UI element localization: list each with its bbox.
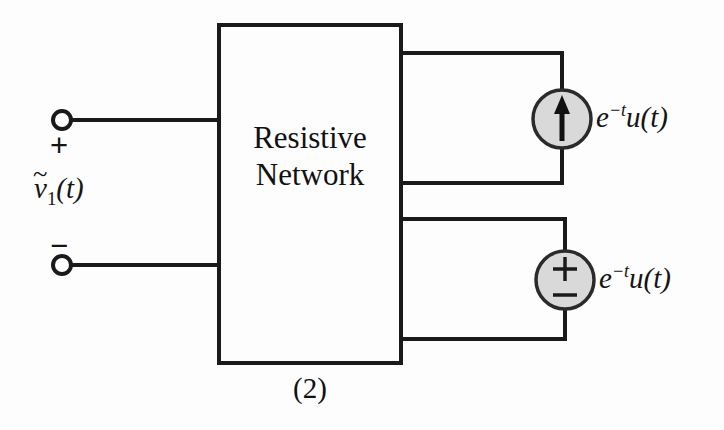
port-voltage-label: ~ v 1(t) bbox=[34, 172, 84, 210]
terminal-minus-sign: − bbox=[50, 228, 68, 264]
current-source-label-exponent: −t bbox=[609, 100, 626, 120]
wire-loop-current-source-return bbox=[399, 146, 562, 183]
circuit-diagram-svg bbox=[0, 0, 724, 430]
port-voltage-arg: (t) bbox=[56, 172, 83, 204]
voltage-source-label: e−tu(t) bbox=[599, 261, 671, 295]
resistive-network-label-line2: Network bbox=[219, 157, 401, 194]
current-source-label: e−tu(t) bbox=[596, 100, 668, 134]
port-voltage-symbol: ~ v bbox=[34, 172, 47, 205]
figure-canvas: Resistive Network (2) + − ~ v 1(t) e−tu(… bbox=[0, 0, 724, 430]
resistive-network-label: Resistive Network bbox=[219, 120, 401, 193]
resistive-network-label-line1: Resistive bbox=[219, 120, 401, 157]
resistive-network-block bbox=[219, 25, 401, 363]
current-source-label-rest: u(t) bbox=[626, 101, 668, 133]
wire-loop-current-source bbox=[399, 53, 562, 92]
voltage-source-label-base: e bbox=[599, 262, 612, 294]
figure-caption: (2) bbox=[219, 372, 401, 405]
voltage-source-label-exponent: −t bbox=[612, 261, 629, 281]
terminal-node-positive bbox=[53, 111, 71, 129]
voltage-source-label-rest: u(t) bbox=[629, 262, 671, 294]
current-source-label-base: e bbox=[596, 101, 609, 133]
port-voltage-subscript: 1 bbox=[47, 188, 56, 209]
tilde-accent: ~ bbox=[33, 159, 47, 190]
terminal-plus-sign: + bbox=[50, 128, 68, 164]
wire-loop-voltage-source bbox=[399, 219, 565, 252]
wire-loop-voltage-source-return bbox=[399, 308, 565, 339]
